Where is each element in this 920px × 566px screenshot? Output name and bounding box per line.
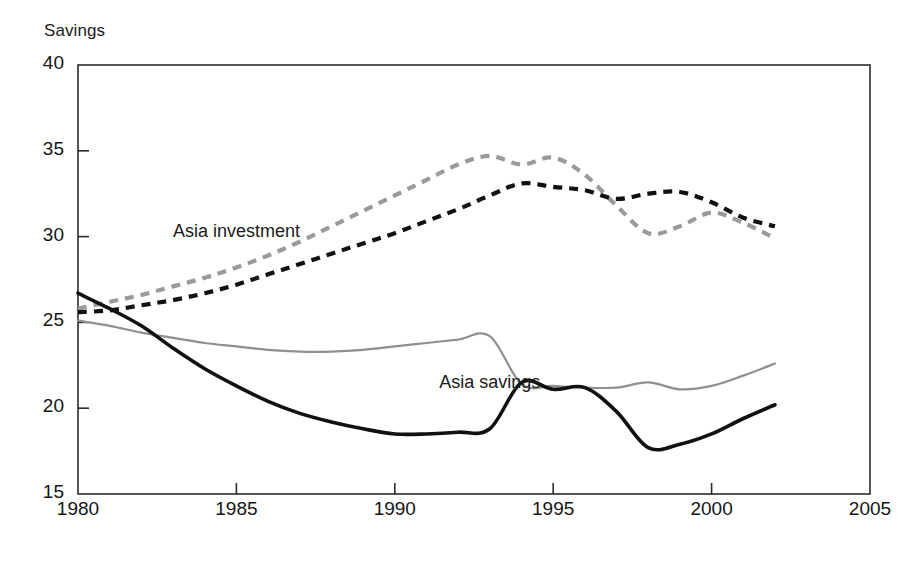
chart-figure: Savings 15202530354019801985199019952000… bbox=[0, 0, 920, 566]
y-tick-label: 30 bbox=[22, 224, 64, 246]
x-tick-label: 1995 bbox=[513, 498, 593, 520]
y-tick-label: 40 bbox=[22, 52, 64, 74]
x-tick-label: 2000 bbox=[672, 498, 752, 520]
chart-plot-area bbox=[0, 0, 920, 566]
x-tick-label: 1980 bbox=[38, 498, 118, 520]
plot-frame bbox=[78, 65, 870, 494]
series-line-1 bbox=[78, 183, 775, 312]
series-line-3 bbox=[78, 293, 775, 450]
x-tick-label: 2005 bbox=[830, 498, 910, 520]
plot-border bbox=[78, 65, 870, 494]
y-tick-label: 20 bbox=[22, 395, 64, 417]
axis-ticks bbox=[78, 151, 712, 494]
series-lines bbox=[78, 156, 775, 450]
x-tick-label: 1985 bbox=[196, 498, 276, 520]
label-asia-investment: Asia investment bbox=[173, 221, 300, 242]
y-tick-label: 35 bbox=[22, 138, 64, 160]
y-tick-label: 25 bbox=[22, 309, 64, 331]
label-asia-savings: Asia savings bbox=[439, 372, 540, 393]
x-tick-label: 1990 bbox=[355, 498, 435, 520]
